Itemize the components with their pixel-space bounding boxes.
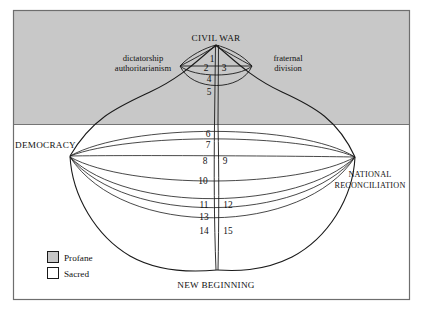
- path-number-2: 2: [204, 63, 209, 73]
- label-dictatorship-line1: dictatorship: [123, 53, 164, 63]
- path-number-15: 15: [223, 226, 233, 236]
- path-number-1: 1: [210, 54, 215, 64]
- label-fraternal-line2: division: [274, 63, 302, 73]
- upper-spine-right: [218, 45, 219, 124]
- path-number-4: 4: [207, 74, 212, 84]
- label-national: NATIONAL: [349, 170, 392, 179]
- label-civil-war: CIVIL WAR: [192, 33, 242, 43]
- label-new-beginning: NEW BEGINNING: [177, 280, 254, 290]
- path-number-7: 7: [206, 140, 211, 150]
- path-number-6: 6: [206, 129, 211, 139]
- label-democracy: DEMOCRACY: [15, 140, 76, 150]
- narrative-pathways-diagram: CIVIL WAR dictatorship authoritarianism …: [0, 0, 425, 323]
- figure-container: CIVIL WAR dictatorship authoritarianism …: [0, 0, 425, 323]
- path-number-9: 9: [223, 156, 228, 166]
- profane-zone: [14, 11, 410, 125]
- legend-label-sacred: Sacred: [64, 269, 89, 279]
- path-number-5: 5: [207, 87, 212, 97]
- path-number-8: 8: [203, 156, 208, 166]
- path-number-14: 14: [199, 226, 209, 236]
- path-number-11: 11: [199, 200, 208, 210]
- label-reconciliation: RECONCILIATION: [334, 181, 405, 190]
- path-number-13: 13: [199, 212, 209, 222]
- legend-label-profane: Profane: [64, 253, 93, 263]
- label-fraternal-line1: fraternal: [273, 53, 303, 63]
- profane-swatch: [48, 252, 59, 263]
- label-dictatorship-line2: authoritarianism: [115, 63, 172, 73]
- sacred-swatch: [48, 268, 59, 279]
- path-number-3: 3: [222, 63, 227, 73]
- path-number-10: 10: [198, 176, 208, 186]
- path-number-12: 12: [223, 200, 233, 210]
